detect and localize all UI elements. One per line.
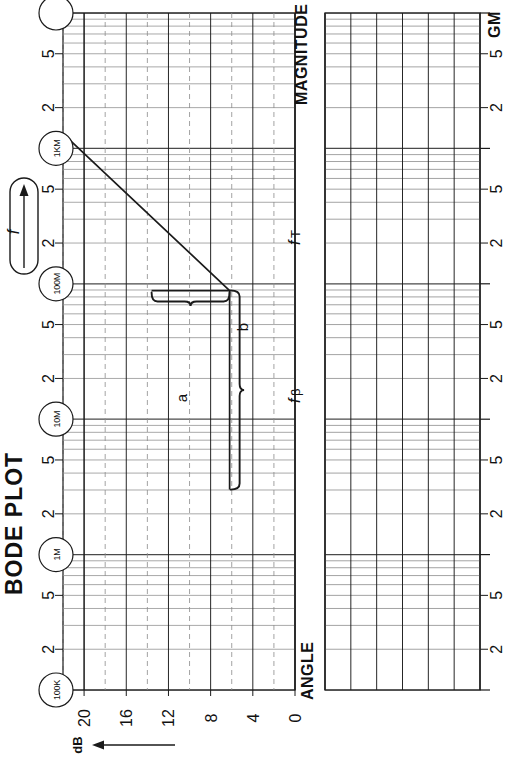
decade-marker-label: 10M [52,411,62,428]
frequency-minor-tick-label: 5 [40,49,57,58]
frequency-minor-tick-label: 2 [40,103,57,112]
frequency-minor-tick-label: 2 [488,645,505,654]
decade-marker-label: 100K [52,680,62,700]
frequency-minor-tick-label: 5 [40,455,57,464]
ft-label-sub: T [288,230,303,238]
frequency-minor-tick-label: 2 [488,374,505,383]
bode-plot-graph: 100K1M10M100M1KM f dB BODE PLOT MAGNITUD… [0,0,526,763]
magnitude-section-label: MAGNITUDE [293,4,310,105]
fbeta-marker-label: f β [286,389,303,403]
decade-marker-label: 1KM [52,140,62,158]
frequency-minor-tick-label: 5 [488,591,505,600]
db-tick-label: 12 [160,709,177,727]
brace-b-label: b [234,323,251,331]
db-tick-label: 16 [118,709,135,727]
frequency-minor-tick-label: 5 [488,320,505,329]
frequency-minor-tick-label: 2 [488,103,505,112]
frequency-minor-tick-label: 5 [40,185,57,194]
frequency-minor-tick-label: 5 [488,455,505,464]
frequency-minor-tick-label: 5 [488,185,505,194]
gain-margin-label: GM [486,11,503,38]
page-title: BODE PLOT [1,452,27,595]
frequency-minor-tick-label: 2 [488,509,505,518]
db-axis-unit-label: dB [70,736,85,753]
decade-marker-label: 100M [52,273,62,294]
bode-plot-sheet: 100K1M10M100M1KM f dB BODE PLOT MAGNITUD… [0,0,526,763]
db-tick-label: 4 [245,713,262,722]
fbeta-label-sub: β [288,389,303,396]
frequency-minor-tick-label: 2 [40,374,57,383]
frequency-minor-tick-label: 2 [40,645,57,654]
frequency-minor-tick-label: 2 [40,509,57,518]
frequency-minor-tick-label: 5 [488,49,505,58]
db-tick-label: 8 [203,713,220,722]
frequency-minor-tick-label: 5 [40,320,57,329]
angle-section-label: ANGLE [299,642,316,701]
frequency-minor-tick-label: 2 [40,238,57,247]
frequency-minor-tick-label: 2 [488,238,505,247]
brace-a-label: a [173,393,190,402]
ft-marker-label: f T [286,230,303,245]
decade-marker-label: 1M [52,549,62,561]
db-tick-label: 0 [287,713,304,722]
frequency-minor-tick-label: 5 [40,591,57,600]
db-tick-label: 20 [76,709,93,727]
paper-background [0,0,526,763]
